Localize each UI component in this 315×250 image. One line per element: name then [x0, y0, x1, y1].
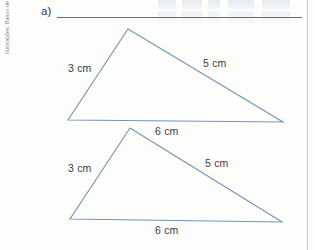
measure-top-bottom: 6 cm — [155, 125, 179, 137]
triangle-top-shape — [68, 29, 283, 122]
measure-bottom-right: 5 cm — [205, 157, 229, 169]
measure-bottom-left: 3 cm — [68, 162, 92, 174]
triangle-bottom-shape — [70, 128, 282, 222]
measure-bottom-bottom: 6 cm — [155, 224, 179, 236]
geometry-figure: 3 cm 5 cm 6 cm 3 cm 5 cm 6 cm — [0, 0, 315, 250]
measure-top-right: 5 cm — [203, 57, 227, 69]
measure-top-left: 3 cm — [68, 62, 92, 74]
page-canvas: a) Ilustrações: Banco de imagens/Arquivo… — [0, 0, 315, 250]
